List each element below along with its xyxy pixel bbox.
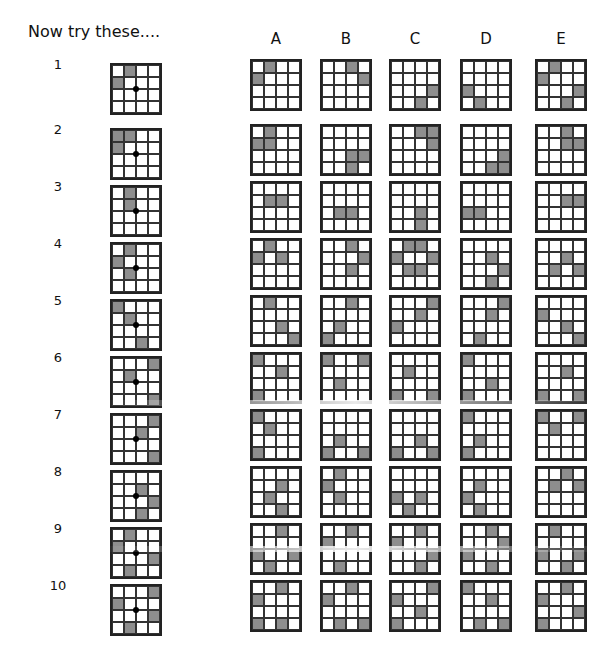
option-grid-4-e[interactable] [535,238,587,290]
grid-cell [427,73,439,85]
grid-cell [498,321,510,333]
option-grid-1-c[interactable] [389,59,441,111]
grid-cell [573,504,585,516]
option-grid-5-b[interactable] [320,295,372,347]
shaded-cell [264,138,276,150]
option-grid-3-b[interactable] [320,181,372,233]
grid-cell [148,301,160,313]
grid-cell [264,504,276,516]
grid-cell [561,85,573,97]
grid-cell [148,508,160,520]
option-grid-1-e[interactable] [535,59,587,111]
grid-cell [403,423,415,435]
grid-cell [334,126,346,138]
option-grid-2-c[interactable] [389,124,441,176]
option-grid-6-a[interactable] [250,352,302,404]
option-grid-8-c[interactable] [389,466,441,518]
option-grid-4-d[interactable] [460,238,512,290]
grid-cell [474,126,486,138]
grid-cell [537,297,549,309]
option-grid-8-a[interactable] [250,466,302,518]
option-grid-3-d[interactable] [460,181,512,233]
grid-cell [358,61,370,73]
option-grid-9-d[interactable] [460,523,512,575]
grid-cell [427,183,439,195]
option-grid-1-a[interactable] [250,59,302,111]
grid-cell [322,504,334,516]
option-grid-1-b[interactable] [320,59,372,111]
option-grid-4-a[interactable] [250,238,302,290]
shaded-cell [498,264,510,276]
option-grid-6-c[interactable] [389,352,441,404]
option-grid-8-d[interactable] [460,466,512,518]
option-grid-1-d[interactable] [460,59,512,111]
option-grid-10-d[interactable] [460,580,512,632]
grid-cell [403,162,415,174]
grid-cell [391,549,403,561]
grid-cell [427,264,439,276]
option-grid-7-e[interactable] [535,409,587,461]
shaded-cell [561,561,573,573]
grid-cell [561,492,573,504]
grid-cell [148,598,160,610]
grid-cell [403,138,415,150]
option-grid-9-c[interactable] [389,523,441,575]
grid-cell [112,508,124,520]
option-grid-9-a[interactable] [250,523,302,575]
grid-cell [264,411,276,423]
grid-cell [427,435,439,447]
option-grid-3-c[interactable] [389,181,441,233]
option-grid-10-c[interactable] [389,580,441,632]
grid-cell [462,309,474,321]
grid-cell [474,606,486,618]
grid-cell [561,73,573,85]
option-grid-2-b[interactable] [320,124,372,176]
option-grid-5-c[interactable] [389,295,441,347]
option-grid-2-d[interactable] [460,124,512,176]
option-grid-7-d[interactable] [460,409,512,461]
option-grid-5-e[interactable] [535,295,587,347]
option-grid-4-c[interactable] [389,238,441,290]
shaded-cell [288,549,300,561]
grid-cell [346,492,358,504]
grid-cell [252,366,264,378]
grid-cell [474,61,486,73]
option-grid-8-e[interactable] [535,466,587,518]
grid-cell [391,240,403,252]
option-grid-7-a[interactable] [250,409,302,461]
option-grid-6-b[interactable] [320,352,372,404]
question-number: 6 [48,350,68,365]
option-grid-7-c[interactable] [389,409,441,461]
grid-cell [264,162,276,174]
grid-cell [403,435,415,447]
grid-cell [112,154,124,166]
grid-cell [276,423,288,435]
option-grid-10-a[interactable] [250,580,302,632]
option-grid-10-e[interactable] [535,580,587,632]
option-grid-9-e[interactable] [535,523,587,575]
shaded-cell [549,264,561,276]
grid-cell [322,321,334,333]
shaded-cell [112,77,124,89]
grid-cell [498,183,510,195]
option-grid-5-d[interactable] [460,295,512,347]
option-grid-2-e[interactable] [535,124,587,176]
rotation-center-dot-icon [133,493,139,499]
option-grid-6-d[interactable] [460,352,512,404]
option-grid-8-b[interactable] [320,466,372,518]
grid-cell [462,435,474,447]
option-grid-10-b[interactable] [320,580,372,632]
shaded-cell [252,549,264,561]
grid-cell [549,468,561,480]
option-grid-4-b[interactable] [320,238,372,290]
shaded-cell [415,264,427,276]
grid-cell [252,378,264,390]
option-grid-7-b[interactable] [320,409,372,461]
option-grid-5-a[interactable] [250,295,302,347]
option-grid-6-e[interactable] [535,352,587,404]
option-grid-9-b[interactable] [320,523,372,575]
option-grid-2-a[interactable] [250,124,302,176]
option-grid-3-a[interactable] [250,181,302,233]
shaded-cell [136,508,148,520]
option-grid-3-e[interactable] [535,181,587,233]
